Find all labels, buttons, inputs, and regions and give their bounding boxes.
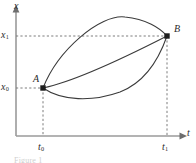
tick-label-x0-subscript: 0 (5, 85, 8, 92)
horizontal-axis-label: t (187, 128, 190, 138)
point-a-marker (40, 85, 45, 90)
tick-label-t0-subscript: 0 (41, 145, 44, 152)
tick-label-x0: x0 (1, 82, 9, 93)
figure-caption: Figure 1 (14, 156, 43, 163)
axis-arrow-right-icon (180, 133, 188, 140)
tick-label-t1-subscript: 1 (165, 145, 168, 152)
tick-label-x1: x1 (1, 30, 9, 41)
tick-label-x1-subscript: 1 (5, 33, 8, 40)
point-b-marker (164, 33, 169, 38)
tick-label-t1: t1 (162, 142, 168, 153)
point-a-label: A (33, 74, 39, 84)
vertical-axis-label: x (14, 1, 18, 11)
point-b-label: B (174, 24, 180, 34)
tick-label-t0: t0 (38, 142, 44, 153)
middle-path-curve (43, 36, 167, 88)
plot-canvas (0, 0, 196, 163)
figure-container: x t x1 x0 t0 t1 A B Figure 1 (0, 0, 196, 163)
upper-path-curve (43, 17, 167, 88)
